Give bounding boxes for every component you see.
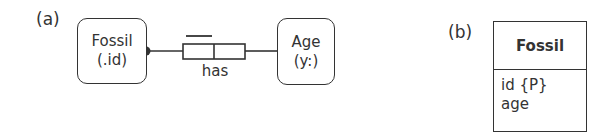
uml-class-name: Fossil — [494, 22, 586, 70]
fact-reading: has — [199, 62, 231, 80]
panel-a-label: (a) — [36, 9, 60, 29]
entity-name: Fossil — [91, 32, 132, 51]
panel-b-label: (b) — [448, 22, 472, 42]
uml-attribute: id {P} — [501, 76, 586, 95]
entity-ref-mode: (y:) — [294, 52, 319, 71]
uml-class-fossil: Fossil id {P} age — [493, 21, 587, 132]
uml-attribute: age — [501, 95, 586, 114]
entity-ref-mode: (.id) — [97, 51, 127, 70]
entity-name: Age — [291, 33, 320, 52]
entity-fossil: Fossil (.id) — [77, 18, 147, 84]
uml-attributes: id {P} age — [494, 70, 586, 114]
entity-age: Age (y:) — [277, 18, 335, 85]
